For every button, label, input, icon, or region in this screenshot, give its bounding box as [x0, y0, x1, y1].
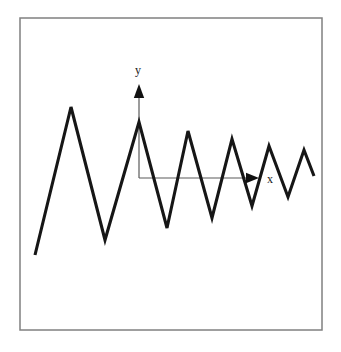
canvas-background	[0, 0, 341, 352]
y-axis-label: y	[135, 63, 141, 77]
x-axis-label: x	[267, 172, 273, 186]
damped-oscillation-diagram: y x	[0, 0, 341, 352]
figure-canvas: y x	[0, 0, 341, 352]
